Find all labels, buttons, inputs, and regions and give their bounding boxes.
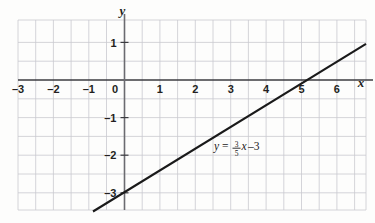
x-tick-label: 3 [228,83,234,95]
x-tick-label: –1 [83,83,95,95]
y-tick-label: –2 [104,149,116,161]
equation-constant: –3 [247,140,260,152]
y-tick-label: –1 [104,112,116,124]
equation-denominator: 5 [235,149,239,158]
graph-figure: –3 –2 –1 0 1 2 3 4 5 6 1 –1 –2 –3 y x y … [0,0,375,223]
equation-variable: x [241,140,248,152]
x-tick-label: 6 [334,83,340,95]
y-axis-label: y [118,3,126,18]
y-tick-label: 1 [110,37,116,49]
equation-equals: = [222,140,229,152]
x-tick-label: 1 [157,83,163,95]
x-tick-label: 5 [298,83,304,95]
equation-lhs: y [213,140,220,153]
equation-numerator: 3 [235,140,239,149]
x-axis-label: x [357,75,365,90]
figure-background [0,0,375,223]
x-tick-label: 2 [192,83,198,95]
x-tick-label: –3 [12,83,24,95]
y-tick-label: –3 [104,187,116,199]
x-tick-label: 0 [112,83,118,95]
x-tick-label: 4 [263,83,270,95]
x-tick-label: –2 [47,83,59,95]
coordinate-plane-svg: –3 –2 –1 0 1 2 3 4 5 6 1 –1 –2 –3 y x y … [0,0,375,223]
